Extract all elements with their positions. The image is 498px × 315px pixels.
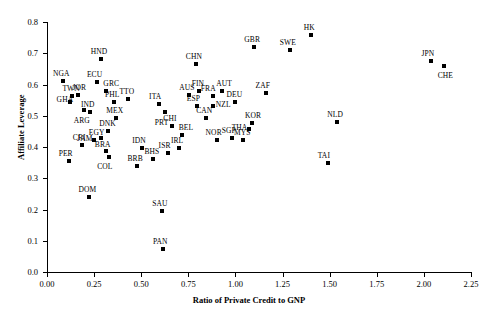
data-point-label: HND bbox=[91, 48, 108, 56]
x-tick-label: 1.00 bbox=[215, 280, 255, 289]
data-point bbox=[177, 146, 181, 150]
x-tick bbox=[330, 273, 331, 277]
data-point bbox=[161, 247, 165, 251]
data-point bbox=[252, 45, 256, 49]
data-point bbox=[215, 138, 219, 142]
x-tick-label: 2.00 bbox=[404, 280, 444, 289]
data-point-label: JOR bbox=[73, 84, 87, 92]
data-point-label: SWE bbox=[280, 39, 296, 47]
data-point-label: MEX bbox=[106, 107, 123, 115]
data-point bbox=[241, 138, 245, 142]
data-point bbox=[151, 157, 155, 161]
data-point-label: BHS bbox=[144, 148, 159, 156]
y-tick-label: 0.7 bbox=[2, 49, 38, 58]
data-point-label: JPN bbox=[421, 50, 434, 58]
data-point bbox=[88, 110, 92, 114]
data-point bbox=[220, 89, 224, 93]
x-tick bbox=[47, 273, 48, 277]
x-tick bbox=[94, 273, 95, 277]
data-point bbox=[309, 33, 313, 37]
data-point-label: CRI bbox=[73, 134, 86, 142]
y-tick-label: 0.2 bbox=[2, 206, 38, 215]
data-point bbox=[80, 143, 84, 147]
x-tick-label: 1.75 bbox=[357, 280, 397, 289]
data-point bbox=[67, 159, 71, 163]
x-tick-label: 0.75 bbox=[168, 280, 208, 289]
data-point-label: IDN bbox=[132, 137, 146, 145]
data-point-label: SAU bbox=[152, 200, 167, 208]
data-point-label: BEL bbox=[179, 124, 193, 132]
data-point-label: DNK bbox=[99, 120, 116, 128]
data-point-label: PHL bbox=[105, 91, 119, 99]
y-tick-label: 0.1 bbox=[2, 237, 38, 246]
data-point bbox=[442, 64, 446, 68]
scatter-chart: 0.00.10.20.30.40.50.60.70.8 0.000.250.50… bbox=[0, 0, 498, 315]
x-tick bbox=[377, 273, 378, 277]
data-point-label: PAN bbox=[153, 238, 168, 246]
data-point-label: KOR bbox=[245, 112, 261, 120]
data-point bbox=[264, 91, 268, 95]
data-point bbox=[95, 80, 99, 84]
x-tick bbox=[141, 273, 142, 277]
data-point bbox=[429, 59, 433, 63]
data-point-label: ZAF bbox=[256, 82, 270, 90]
data-point bbox=[170, 124, 174, 128]
data-point-label: CAN bbox=[196, 107, 212, 115]
data-point bbox=[61, 79, 65, 83]
data-point bbox=[166, 151, 170, 155]
data-point bbox=[250, 121, 254, 125]
data-point bbox=[99, 57, 103, 61]
data-point-label: GBR bbox=[244, 36, 260, 44]
data-point bbox=[104, 149, 108, 153]
data-point bbox=[87, 195, 91, 199]
data-point-label: NZL bbox=[216, 101, 231, 109]
x-tick bbox=[424, 273, 425, 277]
data-point bbox=[126, 97, 130, 101]
data-point bbox=[204, 116, 208, 120]
data-point-label: COL bbox=[97, 163, 112, 171]
data-point bbox=[135, 164, 139, 168]
data-point bbox=[233, 100, 237, 104]
data-point-label: GRC bbox=[103, 80, 119, 88]
data-point-label: NLD bbox=[327, 111, 343, 119]
data-point-label: NGA bbox=[53, 70, 70, 78]
x-tick-label: 0.25 bbox=[74, 280, 114, 289]
data-point bbox=[335, 120, 339, 124]
data-point bbox=[326, 161, 330, 165]
x-tick bbox=[235, 273, 236, 277]
y-tick-label: 0.8 bbox=[2, 18, 38, 27]
data-point-label: CHN bbox=[186, 53, 202, 61]
data-point-label: NOR bbox=[206, 129, 222, 137]
data-point bbox=[211, 94, 215, 98]
data-point-label: DOM bbox=[78, 186, 96, 194]
x-tick-label: 2.25 bbox=[451, 280, 491, 289]
x-axis-line bbox=[47, 272, 472, 273]
x-axis-title: Ratio of Private Credit to GNP bbox=[0, 296, 498, 305]
data-point bbox=[157, 102, 161, 106]
plot-area: NGAHNDECUGRCTWNJORGHAINDPHLTTOMEXARGITAP… bbox=[47, 22, 471, 272]
data-point-label: TAI bbox=[318, 152, 330, 160]
data-point bbox=[106, 129, 110, 133]
x-tick bbox=[471, 273, 472, 277]
data-point-label: IRL bbox=[171, 137, 183, 145]
x-tick bbox=[283, 273, 284, 277]
data-point-label: CHI bbox=[163, 115, 176, 123]
data-point-label: FRA bbox=[201, 85, 216, 93]
data-point-label: ISR bbox=[159, 142, 171, 150]
x-tick-label: 1.50 bbox=[310, 280, 350, 289]
x-tick-label: 0.50 bbox=[121, 280, 161, 289]
data-point-label: ARG bbox=[74, 117, 90, 125]
y-tick-label: 0.0 bbox=[2, 268, 38, 277]
data-point-label: ESP bbox=[187, 95, 200, 103]
x-tick-label: 0.00 bbox=[27, 280, 67, 289]
data-point-label: THA bbox=[232, 124, 248, 132]
data-point-label: CHE bbox=[438, 72, 453, 80]
data-point-label: BRA bbox=[95, 141, 111, 149]
y-axis-title: Affiliate Leverage bbox=[17, 62, 26, 192]
data-point-label: GHA bbox=[57, 96, 74, 104]
data-point-label: ITA bbox=[149, 93, 161, 101]
x-tick bbox=[188, 273, 189, 277]
data-point bbox=[76, 93, 80, 97]
data-point bbox=[288, 48, 292, 52]
data-point-label: HK bbox=[304, 24, 315, 32]
